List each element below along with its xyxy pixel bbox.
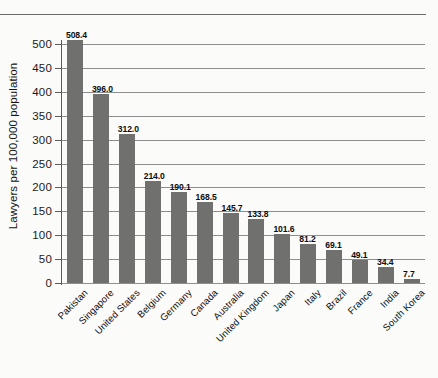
bar-value-label: 81.2 <box>299 234 315 244</box>
bar[interactable] <box>248 219 264 283</box>
bar-series: 508.4396.0312.0214.0190.1168.5145.7133.8… <box>62 44 425 283</box>
bar[interactable] <box>223 213 239 283</box>
y-tick-mark-150 <box>55 211 62 212</box>
y-tick-label-100: 100 <box>32 229 52 241</box>
y-tick-label-450: 450 <box>32 62 52 74</box>
bar[interactable] <box>326 250 342 283</box>
bar[interactable] <box>145 181 161 283</box>
y-tick-mark-100 <box>55 235 62 236</box>
bar[interactable] <box>274 234 290 283</box>
y-tick-label-300: 300 <box>32 134 52 146</box>
y-tick-mark-250 <box>55 164 62 165</box>
y-tick-mark-200 <box>55 187 62 188</box>
bar[interactable] <box>378 267 394 283</box>
y-tick-label-250: 250 <box>32 158 52 170</box>
y-tick-label-200: 200 <box>32 181 52 193</box>
y-tick-label-150: 150 <box>32 205 52 217</box>
bar[interactable] <box>352 260 368 283</box>
bar-value-label: 69.1 <box>325 240 341 250</box>
y-tick-mark-400 <box>55 92 62 93</box>
bar-value-label: 168.5 <box>196 192 217 202</box>
y-tick-label-350: 350 <box>32 110 52 122</box>
bar-value-label: 190.1 <box>170 182 191 192</box>
bar[interactable] <box>93 94 109 283</box>
y-tick-label-400: 400 <box>32 86 52 98</box>
y-tick-label-500: 500 <box>32 38 52 50</box>
bar-value-label: 508.4 <box>66 30 87 40</box>
y-tick-mark-300 <box>55 140 62 141</box>
bar-value-label: 396.0 <box>92 84 113 94</box>
x-axis-category-labels: PakistanSingaporeUnited StatesBelgiumGer… <box>62 285 438 378</box>
bar[interactable] <box>119 134 135 283</box>
bar-value-label: 312.0 <box>118 124 139 134</box>
y-tick-mark-0 <box>55 283 62 284</box>
y-tick-mark-50 <box>55 259 62 260</box>
bar[interactable] <box>404 279 420 283</box>
bar[interactable] <box>171 192 187 283</box>
y-tick-mark-500 <box>55 44 62 45</box>
bar-value-label: 214.0 <box>144 171 165 181</box>
bar-value-label: 7.7 <box>403 269 415 279</box>
y-tick-label-0: 0 <box>45 277 52 289</box>
bar-value-label: 133.8 <box>247 209 268 219</box>
bar-value-label: 145.7 <box>222 203 243 213</box>
y-axis-title: Lawyers per 100,000 population <box>7 46 19 246</box>
bar-value-label: 34.4 <box>377 257 393 267</box>
y-tick-label-50: 50 <box>39 253 52 265</box>
top-divider-rule <box>0 14 426 15</box>
bar[interactable] <box>197 202 213 283</box>
bar-value-label: 101.6 <box>273 224 294 234</box>
bar-chart-figure: 050100150200250300350400450500 Lawyers p… <box>0 0 438 378</box>
bar-value-label: 49.1 <box>351 250 367 260</box>
gridline-0 <box>62 283 425 284</box>
y-tick-mark-450 <box>55 68 62 69</box>
y-tick-mark-350 <box>55 116 62 117</box>
bar[interactable] <box>300 244 316 283</box>
bar[interactable] <box>67 40 83 283</box>
